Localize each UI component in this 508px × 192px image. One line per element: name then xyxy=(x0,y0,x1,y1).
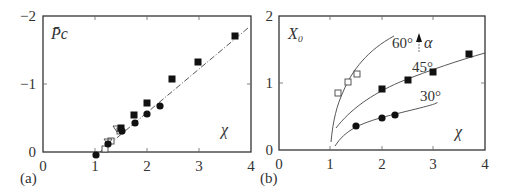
ann-alpha: α xyxy=(424,34,433,51)
b-xlabel: χ xyxy=(453,123,463,141)
panel-a: 0 −1 −2 0 1 2 3 4 (a) P̄c χ xyxy=(20,8,255,187)
a-xtick-1: 1 xyxy=(91,158,99,174)
b-ytick-1: 1 xyxy=(266,75,274,91)
b-open-squares xyxy=(335,71,360,96)
b-filled-circles xyxy=(352,111,398,129)
panel-a-label: (a) xyxy=(20,170,37,187)
panel-b-label: (b) xyxy=(260,170,278,187)
a-filled-squares xyxy=(118,33,239,132)
ann-60: 60° xyxy=(392,35,413,51)
a-xtick-0: 0 xyxy=(39,158,47,174)
a-xtick-4: 4 xyxy=(247,158,255,174)
panel-b: 0 1 2 0 1 2 3 4 (b) X₀ χ 60° 45° 30° α xyxy=(260,8,489,187)
curve-30 xyxy=(335,102,437,146)
a-ytick-1: −1 xyxy=(20,76,36,92)
a-ytick-0: 0 xyxy=(29,144,37,160)
a-xtick-2: 2 xyxy=(143,158,151,174)
a-xlabel: χ xyxy=(219,121,229,139)
b-ytick-2: 2 xyxy=(266,8,274,24)
b-xtick-4: 4 xyxy=(481,156,489,172)
a-ytick-2: −2 xyxy=(20,8,36,24)
alpha-arrow-icon xyxy=(416,33,422,52)
figure: 0 −1 −2 0 1 2 3 4 (a) P̄c χ xyxy=(0,0,508,192)
panel-a-frame xyxy=(43,16,251,152)
b-xtick-1: 1 xyxy=(326,156,334,172)
b-xtick-2: 2 xyxy=(378,156,386,172)
ann-30: 30° xyxy=(420,88,441,104)
a-ylabel: P̄c xyxy=(50,25,68,42)
a-xtick-3: 3 xyxy=(195,158,203,174)
b-ytick-0: 0 xyxy=(266,142,274,158)
b-ylabel: X₀ xyxy=(287,25,303,42)
curve-45 xyxy=(336,53,485,128)
b-xtick-3: 3 xyxy=(429,156,437,172)
